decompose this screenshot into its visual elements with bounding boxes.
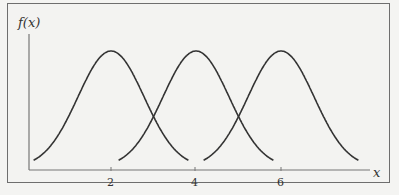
y-axis-label: f(x) [17, 15, 40, 30]
tick-label-2: 2 [107, 176, 114, 189]
x-axis-label: x [373, 165, 381, 180]
bell-curve-mean-2 [34, 51, 189, 160]
bell-curve-mean-4 [119, 51, 274, 160]
bell-curve-mean-6 [204, 51, 359, 160]
tick-label-4: 4 [191, 176, 198, 189]
normal-curves-chart: f(x) x 2 4 6 [0, 0, 399, 195]
tick-label-6: 6 [277, 176, 284, 189]
